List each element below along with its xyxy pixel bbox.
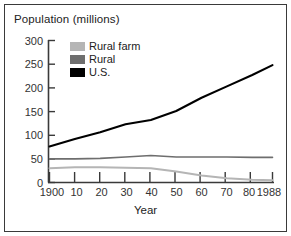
legend-item-rural-farm: Rural farm bbox=[70, 40, 140, 52]
x-tick-label: 80 bbox=[243, 186, 255, 198]
legend-label: Rural farm bbox=[89, 41, 140, 52]
y-tick-label: 250 bbox=[25, 58, 43, 70]
y-tick-label: 200 bbox=[25, 82, 43, 94]
x-tick-label: 70 bbox=[220, 186, 232, 198]
y-tick-label: 150 bbox=[25, 106, 43, 118]
legend-swatch-icon bbox=[70, 42, 85, 51]
y-tick-label: 100 bbox=[25, 129, 43, 141]
series-line-rural-farm bbox=[50, 167, 273, 180]
x-tick-label: 1900 bbox=[40, 186, 64, 198]
x-tick-marks bbox=[50, 172, 273, 182]
series-line-rural bbox=[50, 156, 273, 159]
x-tick-label: 50 bbox=[170, 186, 182, 198]
plot-area: 300 250 200 150 100 50 0 1900 10 20 30 4… bbox=[0, 0, 291, 236]
legend-item-us: U.S. bbox=[70, 66, 140, 78]
y-tick-label: 300 bbox=[25, 35, 43, 47]
x-tick-label: 60 bbox=[195, 186, 207, 198]
legend-item-rural: Rural bbox=[70, 53, 140, 65]
x-tick-label: 40 bbox=[145, 186, 157, 198]
chart-figure: Population (millions) 300 250 200 150 10… bbox=[0, 0, 291, 236]
x-tick-label: 1988 bbox=[257, 186, 281, 198]
x-tick-label: 20 bbox=[95, 186, 107, 198]
x-tick-label: 10 bbox=[70, 186, 82, 198]
series-group bbox=[50, 65, 273, 180]
legend-swatch-icon bbox=[70, 55, 85, 64]
y-tick-label: 50 bbox=[31, 153, 43, 165]
legend-label: Rural bbox=[89, 54, 115, 65]
chart-legend: Rural farm Rural U.S. bbox=[70, 40, 140, 79]
legend-swatch-icon bbox=[70, 68, 85, 77]
legend-label: U.S. bbox=[89, 67, 110, 78]
x-tick-label: 30 bbox=[120, 186, 132, 198]
x-axis-label: Year bbox=[0, 204, 291, 216]
